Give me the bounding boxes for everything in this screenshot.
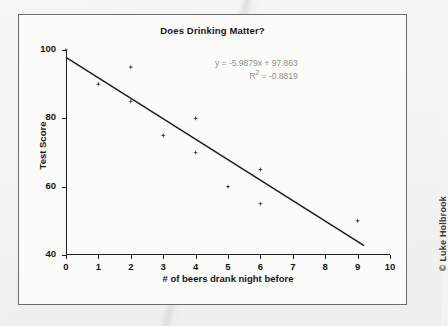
data-point bbox=[193, 116, 198, 121]
y-tick: 80 bbox=[62, 118, 66, 119]
regression-equation: y = -5.9879x + 97.863 bbox=[215, 57, 298, 70]
x-tick: 0 bbox=[66, 255, 67, 259]
x-tick-label: 1 bbox=[96, 261, 101, 272]
copyright-notice: © Luke Holbrook bbox=[438, 196, 448, 271]
x-tick: 2 bbox=[131, 255, 132, 259]
x-tick: 1 bbox=[98, 255, 99, 259]
x-tick-label: 2 bbox=[128, 261, 133, 272]
x-tick-label: 5 bbox=[225, 261, 230, 272]
data-point bbox=[258, 201, 263, 206]
x-tick: 9 bbox=[358, 255, 359, 259]
data-point bbox=[128, 65, 133, 70]
data-point bbox=[193, 150, 198, 155]
x-tick-label: 0 bbox=[63, 261, 68, 272]
regression-annotation: y = -5.9879x + 97.863 R2 = -0.8819 bbox=[215, 57, 298, 82]
y-tick-label: 40 bbox=[45, 248, 56, 259]
x-tick-label: 4 bbox=[193, 261, 198, 272]
x-tick-label: 10 bbox=[385, 261, 396, 272]
x-tick: 10 bbox=[390, 255, 391, 259]
x-tick-label: 8 bbox=[323, 261, 328, 272]
x-tick-label: 9 bbox=[355, 261, 360, 272]
y-tick-label: 100 bbox=[40, 43, 56, 54]
data-point bbox=[355, 218, 360, 223]
x-tick-label: 3 bbox=[161, 261, 166, 272]
data-point bbox=[226, 184, 231, 189]
x-tick: 8 bbox=[325, 255, 326, 259]
x-tick: 4 bbox=[196, 255, 197, 259]
x-tick: 3 bbox=[163, 255, 164, 259]
data-point bbox=[96, 82, 101, 87]
x-tick: 6 bbox=[260, 255, 261, 259]
x-tick-label: 6 bbox=[258, 261, 263, 272]
r-squared-number: = -0.8819 bbox=[259, 71, 298, 81]
x-tick-label: 7 bbox=[290, 261, 295, 272]
data-point bbox=[64, 48, 69, 53]
x-tick: 5 bbox=[228, 255, 229, 259]
r-squared-value: R2 = -0.8819 bbox=[215, 70, 298, 83]
y-tick: 60 bbox=[62, 187, 66, 188]
y-axis-title: Test Score bbox=[37, 101, 48, 191]
x-axis-title: # of beers drank night before bbox=[66, 273, 390, 284]
data-point bbox=[161, 133, 166, 138]
chart-frame: Does Drinking Matter? 406080100 01234567… bbox=[18, 14, 407, 305]
chart-title: Does Drinking Matter? bbox=[19, 25, 406, 36]
data-point bbox=[258, 167, 263, 172]
x-tick: 7 bbox=[293, 255, 294, 259]
data-point bbox=[128, 99, 133, 104]
y-axis-line bbox=[66, 50, 67, 255]
